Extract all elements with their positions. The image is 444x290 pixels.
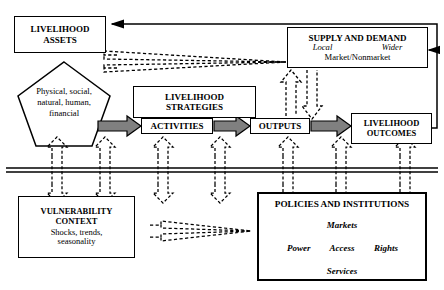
vertical-dashed-arrow-4 [210,137,230,203]
node-activities[interactable]: ACTIVITIES [141,118,213,134]
assets-pentagon-label: Physical, social, natural, human, financ… [20,86,108,120]
node-livelihood-assets[interactable]: LIVELIHOOD ASSETS [14,16,106,53]
dashed-link-vulnerability-policies [150,221,251,241]
dashed-link-assets-supply-demand [104,51,286,72]
pentagon-line2: natural, human, [20,97,108,108]
vulnerability-line2: CONTEXT [55,217,97,227]
vertical-dashed-arrow-3 [153,137,173,203]
policies-ring: Markets Power Access Rights Services [259,209,425,277]
policies-services: Services [327,266,358,276]
diagram-canvas: LIVELIHOOD ASSETS Physical, social, natu… [0,0,444,290]
node-policies-and-institutions[interactable]: POLICIES AND INSTITUTIONS Markets Power … [257,192,427,281]
vertical-dashed-arrow-2 [95,137,115,203]
activities-label: ACTIVITIES [150,121,203,131]
policies-title: POLICIES AND INSTITUTIONS [275,199,409,209]
node-vulnerability-context[interactable]: VULNERABILITY CONTEXT Shocks, trends, se… [18,196,135,258]
institutional-divide-line [6,168,438,172]
livelihood-assets-line2: ASSETS [43,35,77,45]
livelihood-strategies-line1: LIVELIHOOD [165,92,224,102]
outputs-label: OUTPUTS [259,121,302,131]
pentagon-line3: financial [20,108,108,119]
node-livelihood-outcomes[interactable]: LIVELIHOOD OUTCOMES [351,113,432,144]
dashed-arrow-supply-demand-to-outputs [302,70,322,119]
vertical-dashed-arrow-1 [47,137,67,203]
flow-arrow-outputs-to-outcomes [311,116,351,136]
policies-markets: Markets [327,220,358,230]
policies-rights: Rights [374,243,398,253]
livelihood-assets-line1: LIVELIHOOD [30,24,89,34]
flow-arrow-activities-to-outputs [214,116,250,136]
node-outputs[interactable]: OUTPUTS [250,118,310,134]
vulnerability-line4: seasonality [58,237,96,247]
policies-access: Access [330,243,355,253]
livelihood-strategies-line2: STRATEGIES [166,102,223,112]
livelihood-outcomes-line2: OUTCOMES [367,129,417,139]
supply-demand-market: Market/Nonmarket [325,53,391,63]
policies-power: Power [287,243,311,253]
node-supply-and-demand[interactable]: SUPPLY AND DEMAND Local Wider Market/Non… [287,27,428,68]
dashed-arrow-outputs-to-supply-demand [281,70,301,116]
pentagon-line1: Physical, social, [20,86,108,97]
node-livelihood-strategies[interactable]: LIVELIHOOD STRATEGIES [133,86,256,118]
